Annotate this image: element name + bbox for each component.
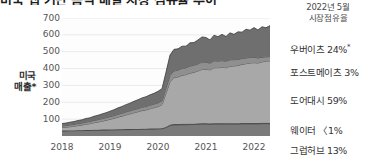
chart-plot-area (62, 18, 270, 136)
legend-item-웨이터: 웨이터 〈1% (290, 126, 342, 136)
legend-label: 웨이터 (290, 125, 318, 136)
y-tick-700: 700 (30, 14, 60, 23)
x-tick-2019: 2019 (99, 142, 122, 152)
legend-label: 그럽허브 (290, 145, 327, 156)
legend-item-도어대시: 도어대시 59% (290, 96, 347, 106)
legend-header-line2: 시장점유율 (288, 13, 368, 24)
x-tick-2021: 2021 (195, 142, 218, 152)
legend-share-value: 〈1% (318, 125, 342, 136)
y-tick-600: 600 (30, 30, 60, 39)
legend-label: 포스트메이츠 (290, 67, 344, 78)
legend-header: 2022년 5월 시장점유율 (288, 2, 368, 23)
legend-label: 도어대시 (290, 95, 327, 106)
legend-label: 우버이츠 (290, 44, 327, 55)
chart-legend: 2022년 5월 시장점유율 우버이츠 24%*포스트메이츠 3%도어대시 59… (272, 0, 368, 166)
y-tick-100: 100 (30, 115, 60, 124)
legend-header-line1: 2022년 5월 (288, 2, 368, 13)
legend-share-value: 59% (327, 95, 347, 106)
legend-item-우버이츠: 우버이츠 24%* (290, 42, 350, 55)
x-tick-2022: 2022 (243, 142, 266, 152)
legend-share-value: 24% (327, 44, 347, 55)
legend-share-value: 3% (344, 67, 358, 78)
legend-footnote-marker: * (347, 43, 350, 51)
y-tick-200: 200 (30, 98, 60, 107)
stacked-area-chart (62, 18, 270, 136)
y-tick-300: 300 (30, 81, 60, 90)
x-axis-tick-labels: 20182019202020212022 (62, 142, 292, 156)
y-tick-400: 400 (30, 64, 60, 73)
legend-share-value: 13% (327, 145, 347, 156)
x-tick-2018: 2018 (51, 142, 74, 152)
x-tick-2020: 2020 (147, 142, 170, 152)
y-tick-500: 500 (30, 47, 60, 56)
legend-item-포스트메이츠: 포스트메이츠 3% (290, 68, 359, 78)
legend-item-그럽허브: 그럽허브 13% (290, 146, 347, 156)
